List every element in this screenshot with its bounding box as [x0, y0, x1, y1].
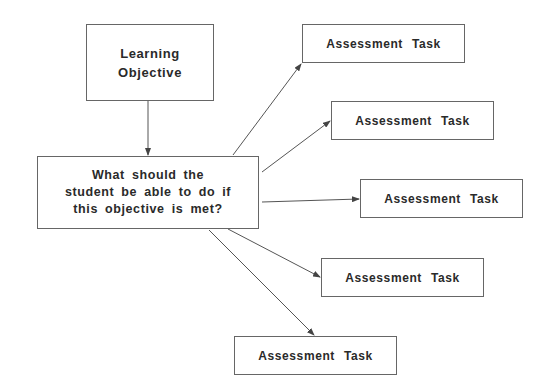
- arrow-question-to-task-5: [209, 230, 314, 335]
- diagram-canvas: Learning Objective What should the stude…: [0, 0, 548, 391]
- arrow-question-to-task-3: [262, 199, 359, 202]
- learning-objective-text: Learning Objective: [118, 44, 182, 82]
- arrow-question-to-task-1: [233, 64, 301, 155]
- assessment-task-label: Assessment Task: [326, 37, 441, 51]
- question-line-3: this objective is met?: [65, 201, 231, 218]
- guiding-question-text: What should the student be able to do if…: [65, 167, 231, 218]
- question-line-1: What should the: [65, 167, 231, 184]
- assessment-task-label: Assessment Task: [258, 349, 373, 363]
- assessment-task-box-5: Assessment Task: [234, 336, 397, 375]
- guiding-question-box: What should the student be able to do if…: [37, 156, 259, 229]
- arrow-question-to-task-4: [228, 229, 320, 277]
- assessment-task-box-4: Assessment Task: [321, 258, 484, 297]
- question-line-2: student be able to do if: [65, 184, 231, 201]
- learning-objective-box: Learning Objective: [86, 24, 214, 101]
- objective-line-2: Objective: [118, 63, 182, 82]
- assessment-task-box-3: Assessment Task: [360, 179, 523, 218]
- assessment-task-label: Assessment Task: [384, 192, 499, 206]
- assessment-task-label: Assessment Task: [355, 114, 470, 128]
- assessment-task-box-2: Assessment Task: [331, 101, 494, 140]
- objective-line-1: Learning: [118, 44, 182, 63]
- arrow-question-to-task-2: [262, 121, 330, 172]
- assessment-task-label: Assessment Task: [345, 271, 460, 285]
- assessment-task-box-1: Assessment Task: [302, 24, 465, 63]
